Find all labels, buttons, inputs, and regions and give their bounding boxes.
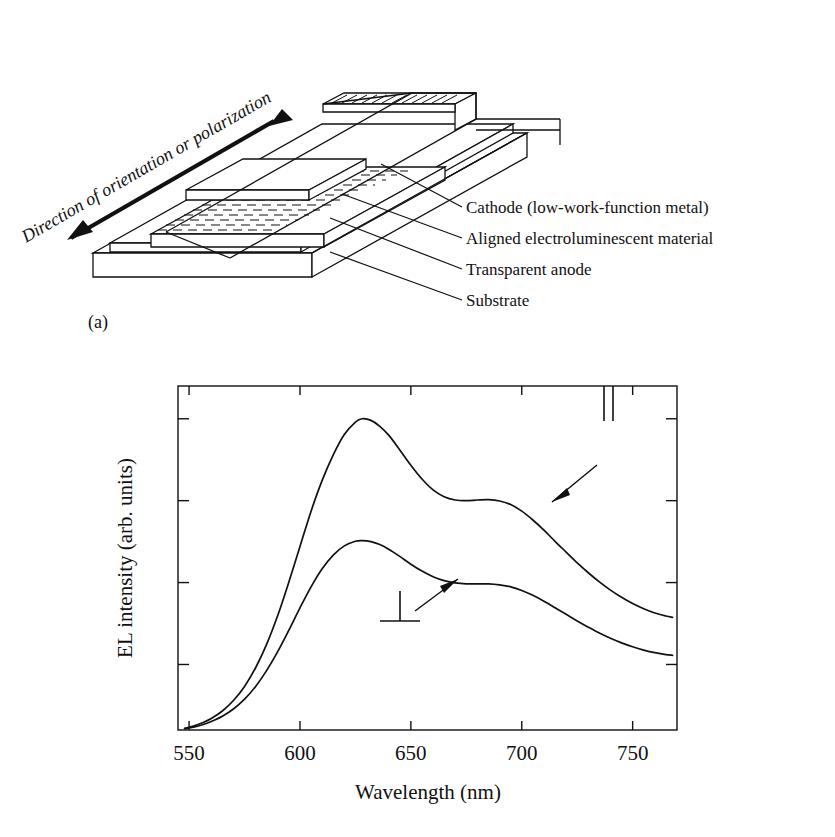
x-axis-title: Wavelength (nm)	[355, 780, 501, 804]
plot-frame	[178, 386, 677, 730]
callout-label-substrate: Substrate	[466, 292, 529, 311]
callout-label-cathode: Cathode (low-work-function metal)	[466, 199, 709, 218]
leader-substrate	[330, 252, 462, 300]
panel-a-device-schematic: Direction of orientation or polarization…	[0, 0, 835, 345]
x-tick-label-650: 650	[395, 741, 427, 765]
x-tick-label-700: 700	[506, 741, 538, 765]
x-tick-label-600: 600	[284, 741, 316, 765]
x-tick-label-750: 750	[617, 741, 649, 765]
y-axis-title: EL intensity (arb. units)	[113, 458, 137, 658]
x-tick-label-550: 550	[173, 741, 205, 765]
figure-root: Direction of orientation or polarization…	[0, 0, 835, 837]
callout-label-aligned-el-material: Aligned electroluminescent material	[466, 230, 713, 249]
panel-b-el-spectrum-chart: 550600650700750 Wavelength (nm) EL inten…	[0, 345, 835, 837]
device-schematic-svg: Direction of orientation or polarization	[0, 0, 835, 345]
el-spectrum-svg: 550600650700750 Wavelength (nm) EL inten…	[0, 345, 835, 837]
panel-tag-a: (a)	[88, 312, 108, 333]
callout-label-transparent-anode: Transparent anode	[466, 261, 591, 280]
x-tick-labels: 550600650700750	[173, 741, 648, 765]
